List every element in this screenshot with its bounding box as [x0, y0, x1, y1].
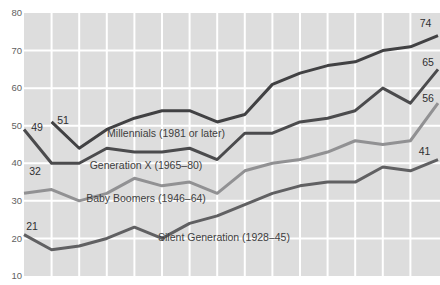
- series-label-silent-generation: Silent Generation (1928–45): [158, 231, 290, 243]
- y-tick-label: 10: [11, 270, 22, 281]
- start-value-label-silent-generation: 21: [26, 220, 38, 232]
- line-chart-svg: 8070605040302010Millennials (1981 or lat…: [0, 0, 440, 285]
- y-tick-label: 40: [11, 157, 22, 168]
- end-value-label-millennials: 74: [420, 17, 432, 29]
- series-label-generation-x: Generation X (1965–80): [90, 159, 203, 171]
- series-label-millennials: Millennials (1981 or later): [107, 127, 225, 139]
- y-tick-label: 30: [11, 195, 22, 206]
- y-tick-label: 60: [11, 82, 22, 93]
- end-value-label-generation-x: 65: [422, 56, 434, 68]
- start-value-label-generation-x: 49: [31, 121, 43, 133]
- y-tick-label: 80: [11, 7, 22, 18]
- start-value-label-millennials: 51: [57, 114, 69, 126]
- start-value-label-baby-boomers: 32: [29, 165, 41, 177]
- y-tick-label: 70: [11, 45, 22, 56]
- y-tick-label: 20: [11, 233, 22, 244]
- y-tick-label: 50: [11, 120, 22, 131]
- generations-line-chart: 8070605040302010Millennials (1981 or lat…: [0, 0, 440, 285]
- end-value-label-baby-boomers: 56: [422, 92, 434, 104]
- end-value-label-silent-generation: 41: [419, 145, 431, 157]
- series-label-baby-boomers: Baby Boomers (1946–64): [86, 192, 206, 204]
